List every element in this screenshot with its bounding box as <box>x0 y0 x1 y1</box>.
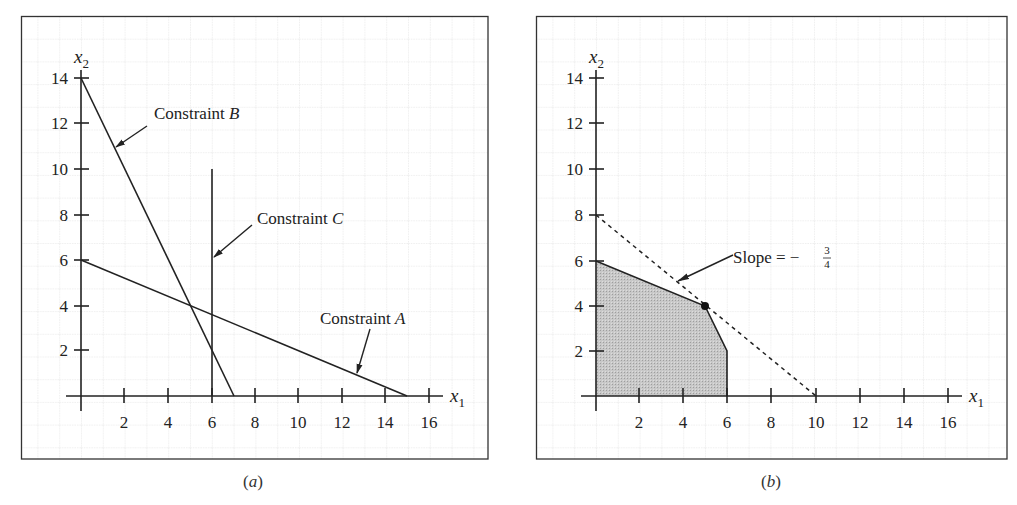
y-tick-label: 2 <box>575 342 584 361</box>
x-tick-label: 14 <box>896 413 914 432</box>
x-tick-label: 8 <box>767 413 776 432</box>
panel-b: 14 12 10 8 6 4 2 2 4 6 8 10 12 14 16 x2 … <box>0 0 1017 505</box>
y-tick-label: 14 <box>566 69 584 88</box>
y-tick-label: 4 <box>575 297 584 316</box>
x-tick-label: 16 <box>940 413 957 432</box>
x-tick-label: 6 <box>723 413 732 432</box>
y-tick-label: 6 <box>575 252 584 271</box>
y-tick-label: 12 <box>566 114 583 133</box>
x-tick-label: 2 <box>635 413 644 432</box>
x-tick-label: 4 <box>679 413 688 432</box>
chart-b: 14 12 10 8 6 4 2 2 4 6 8 10 12 14 16 x2 … <box>0 0 1017 505</box>
y-tick-label: 8 <box>575 206 584 225</box>
x-tick-label: 10 <box>808 413 825 432</box>
svg-text:Slope = −: Slope = − <box>733 248 799 267</box>
optimal-point <box>701 302 709 310</box>
svg-text:3: 3 <box>824 244 830 256</box>
x-tick-label: 12 <box>852 413 869 432</box>
svg-text:4: 4 <box>824 258 830 270</box>
y-tick-label: 10 <box>566 160 583 179</box>
caption-b: (b) <box>761 472 781 492</box>
